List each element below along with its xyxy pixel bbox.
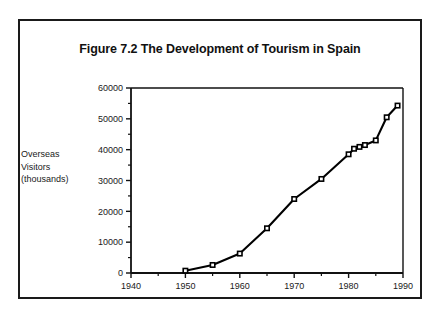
data-point-marker <box>265 226 269 230</box>
y-tick-label: 40000 <box>98 145 123 155</box>
x-tick-label: 1970 <box>284 281 304 291</box>
x-tick-label: 1940 <box>121 281 141 291</box>
data-point-marker <box>183 268 187 272</box>
data-point-marker <box>357 145 361 149</box>
x-tick-label: 1960 <box>230 281 250 291</box>
data-point-marker <box>352 147 356 151</box>
y-tick-label: 50000 <box>98 114 123 124</box>
y-tick-label: 20000 <box>98 207 123 217</box>
data-point-marker <box>374 138 378 142</box>
data-line-overseas-visitors <box>185 106 397 271</box>
x-tick-label: 1980 <box>339 281 359 291</box>
data-point-marker <box>395 103 399 107</box>
y-tick-label: 0 <box>118 268 123 278</box>
y-tick-label: 10000 <box>98 237 123 247</box>
data-point-marker <box>292 197 296 201</box>
data-point-marker <box>384 115 388 119</box>
figure-container: Figure 7.2 The Development of Tourism in… <box>0 0 440 318</box>
data-point-marker <box>210 263 214 267</box>
data-point-marker <box>346 152 350 156</box>
line-chart-plot: 0100002000030000400005000060000194019501… <box>0 0 440 318</box>
x-tick-label: 1950 <box>175 281 195 291</box>
data-point-marker <box>319 177 323 181</box>
y-tick-label: 60000 <box>98 83 123 93</box>
data-point-marker <box>238 251 242 255</box>
data-point-marker <box>363 143 367 147</box>
x-tick-label: 1990 <box>393 281 413 291</box>
y-tick-label: 30000 <box>98 176 123 186</box>
